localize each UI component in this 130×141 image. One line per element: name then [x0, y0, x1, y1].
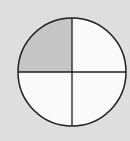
fraction-circle-diagram [0, 0, 130, 141]
